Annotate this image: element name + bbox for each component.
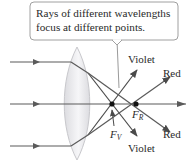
label-red-top: Red — [163, 67, 181, 79]
focal-point-red-dot — [133, 101, 138, 106]
focal-label-red: FR — [131, 108, 144, 122]
focal-label-violet: FV — [109, 128, 123, 142]
label-violet-top: Violet — [128, 53, 155, 65]
chromatic-aberration-diagram: Rays of different wavelengths focus at d… — [0, 0, 191, 166]
label-red-bottom: Red — [163, 128, 181, 140]
callout-box: Rays of different wavelengths focus at d… — [30, 2, 178, 45]
label-violet-bottom: Violet — [128, 142, 155, 154]
callout-pointer — [117, 40, 119, 88]
callout-line-2: focus at different points. — [36, 21, 145, 33]
callout-line-1: Rays of different wavelengths — [36, 7, 170, 19]
focal-point-violet-dot — [109, 101, 114, 106]
